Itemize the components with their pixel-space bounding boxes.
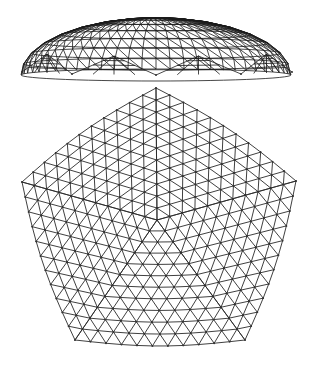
strut [195, 206, 208, 210]
strut [79, 225, 92, 228]
strut [122, 249, 127, 263]
strut [197, 260, 202, 274]
strut [70, 183, 71, 196]
strut [247, 221, 251, 236]
strut [108, 206, 120, 209]
strut [144, 184, 156, 192]
strut [62, 312, 68, 326]
node [70, 195, 72, 197]
strut [125, 25, 126, 31]
strut [166, 264, 173, 276]
strut [22, 76, 24, 77]
strut [183, 115, 196, 123]
strut [277, 211, 290, 214]
strut [107, 181, 120, 185]
strut [182, 209, 195, 213]
node [103, 117, 105, 119]
strut [178, 213, 182, 228]
node [82, 328, 84, 330]
strut [104, 118, 117, 123]
strut [273, 226, 286, 229]
node [220, 306, 222, 308]
node [95, 202, 97, 204]
strut [182, 264, 189, 276]
strut [58, 179, 70, 183]
strut [58, 233, 71, 236]
strut [91, 126, 104, 130]
strut [255, 273, 260, 287]
strut [167, 287, 174, 299]
strut [112, 221, 117, 235]
strut [132, 192, 144, 201]
strut [56, 299, 62, 313]
strut [22, 182, 34, 185]
strut [233, 173, 234, 186]
node [100, 256, 102, 258]
node [282, 184, 284, 186]
strut [137, 228, 142, 242]
strut [148, 24, 156, 30]
strut [157, 156, 170, 160]
strut [120, 201, 132, 210]
strut [83, 199, 95, 202]
node [190, 332, 192, 334]
strut [234, 236, 247, 239]
strut [273, 162, 285, 172]
strut [72, 276, 78, 290]
strut [223, 134, 236, 138]
strut [170, 216, 178, 227]
node [279, 199, 281, 201]
node [233, 238, 235, 240]
node [257, 191, 259, 193]
strut [105, 296, 113, 308]
strut [208, 206, 217, 217]
strut [277, 200, 280, 215]
strut [212, 232, 221, 243]
strut [91, 293, 104, 296]
node [119, 196, 121, 198]
node [234, 303, 236, 305]
strut [224, 265, 238, 268]
strut [58, 170, 69, 179]
strut [234, 160, 235, 173]
node [126, 263, 128, 265]
node [142, 119, 144, 121]
strut [91, 118, 103, 126]
strut [182, 197, 195, 201]
node [61, 312, 63, 314]
strut [183, 164, 196, 172]
strut [175, 334, 183, 346]
node [193, 248, 195, 250]
strut [75, 251, 88, 254]
node [229, 341, 231, 343]
node [55, 298, 57, 300]
strut [118, 147, 131, 151]
strut [190, 310, 198, 321]
node [31, 226, 33, 228]
strut [168, 334, 175, 346]
strut [55, 50, 58, 60]
strut [125, 224, 137, 227]
node [128, 332, 130, 334]
node [194, 196, 196, 198]
strut [104, 232, 109, 246]
strut [29, 212, 33, 227]
node [119, 297, 121, 299]
node [182, 200, 184, 202]
strut [247, 156, 248, 169]
node [203, 220, 205, 222]
strut [223, 126, 224, 139]
strut [90, 318, 98, 330]
strut [242, 207, 255, 210]
strut [93, 152, 94, 165]
strut [235, 301, 249, 304]
strut [205, 285, 213, 296]
strut [143, 132, 156, 136]
strut [86, 279, 92, 293]
strut [144, 310, 152, 322]
strut [145, 208, 157, 217]
strut [234, 239, 243, 250]
strut [144, 192, 157, 196]
node [250, 220, 252, 222]
strut [249, 143, 261, 152]
